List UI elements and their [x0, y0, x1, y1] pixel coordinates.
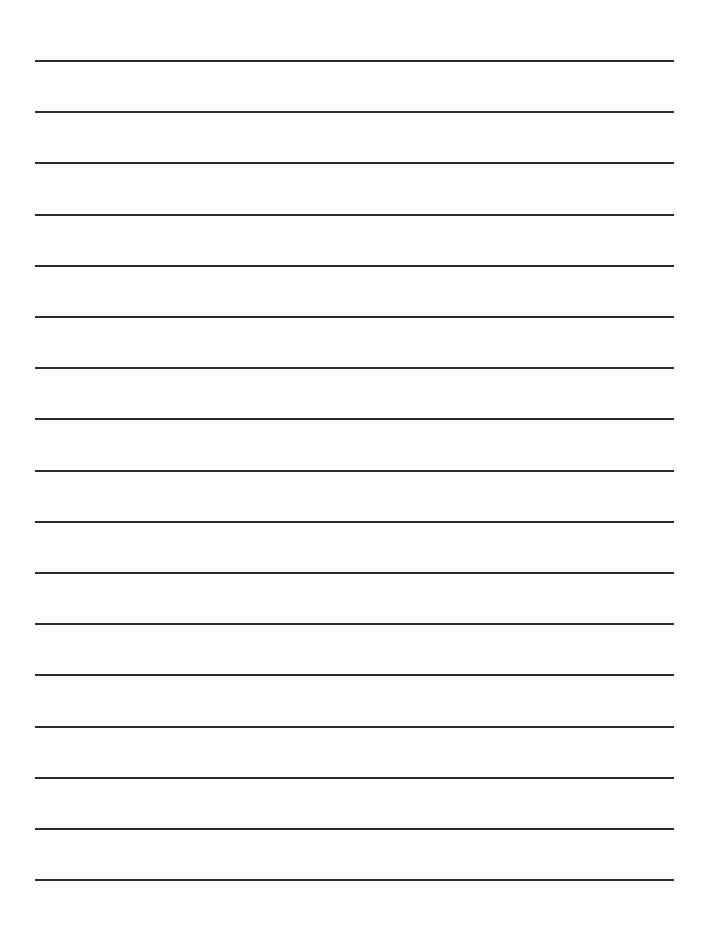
- ruled-line: [35, 726, 674, 728]
- lined-paper-page: [0, 0, 711, 930]
- ruled-line: [35, 470, 674, 472]
- ruled-line: [35, 111, 674, 113]
- ruled-line: [35, 777, 674, 779]
- ruled-line: [35, 879, 674, 881]
- ruled-line: [35, 828, 674, 830]
- ruled-line: [35, 162, 674, 164]
- ruled-line: [35, 60, 674, 62]
- ruled-line: [35, 316, 674, 318]
- ruled-line: [35, 418, 674, 420]
- ruled-line: [35, 265, 674, 267]
- ruled-line: [35, 367, 674, 369]
- ruled-line: [35, 214, 674, 216]
- ruled-line: [35, 674, 674, 676]
- ruled-line: [35, 623, 674, 625]
- ruled-line: [35, 521, 674, 523]
- ruled-line: [35, 572, 674, 574]
